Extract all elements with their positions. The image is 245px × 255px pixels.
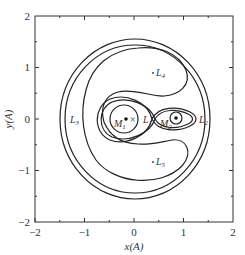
- y-tick-label: 2: [25, 10, 31, 22]
- label-l4: L4: [155, 67, 166, 80]
- x-tick-label: −2: [29, 226, 41, 238]
- y-tick-label: 1: [25, 61, 31, 73]
- y-tick-label: 0: [25, 113, 31, 125]
- barycenter-marker: ×: [130, 114, 136, 125]
- label-l2: L2: [198, 114, 209, 127]
- x-tick-label: 2: [230, 226, 236, 238]
- label-l3: L3: [69, 114, 80, 127]
- x-axis-label: x(A): [124, 240, 144, 253]
- l5-dot: [152, 161, 154, 163]
- l4-dot: [152, 72, 154, 74]
- label-l5: L5: [155, 156, 166, 169]
- y-tick-label: −2: [18, 216, 30, 228]
- y-axis-label: y(A): [2, 109, 15, 129]
- m2-dot: [174, 116, 178, 120]
- y-tick-label: −1: [18, 164, 30, 176]
- x-tick-label: 1: [181, 226, 187, 238]
- zero-velocity-diagram: −2 −1 0 1 2 2 1 0 −1 −2 x(A) y(A) × L4 L…: [0, 0, 245, 255]
- x-tick-label: −1: [79, 226, 91, 238]
- m1-dot: [124, 117, 128, 121]
- x-tick-label: 0: [131, 226, 137, 238]
